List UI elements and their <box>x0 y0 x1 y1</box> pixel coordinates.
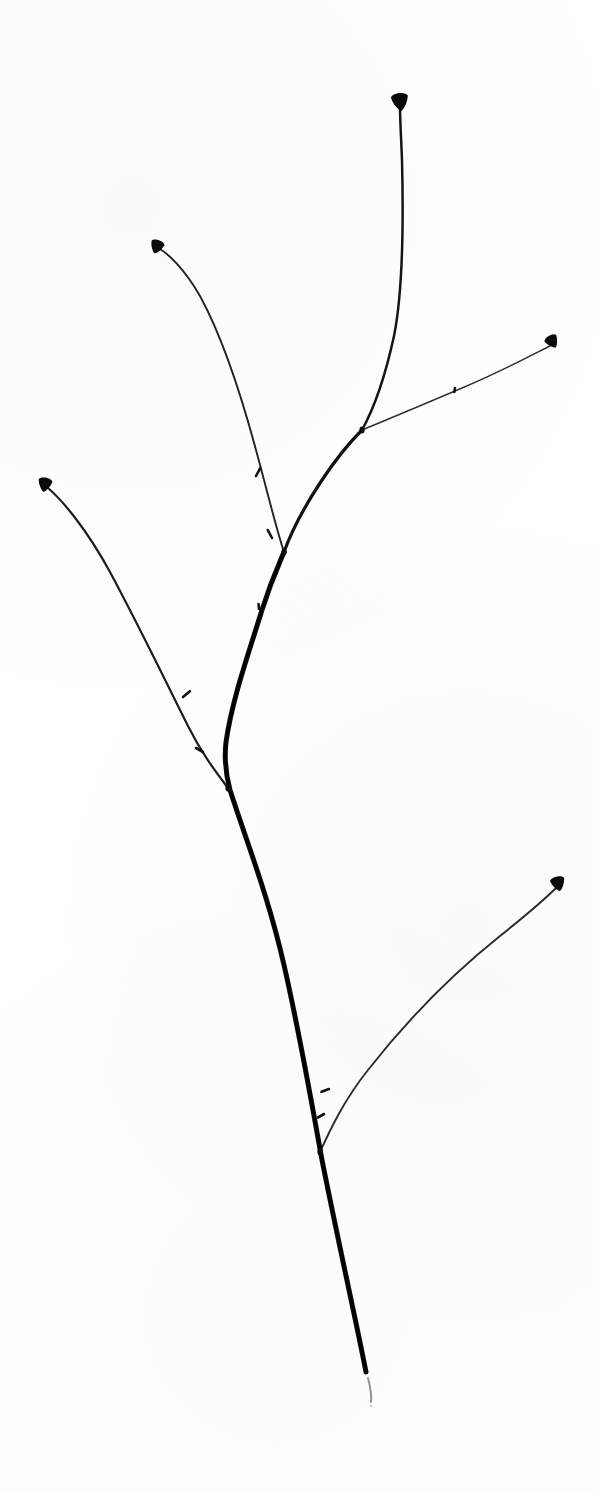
cut-end-speck <box>370 1405 372 1407</box>
fork-lower-node <box>317 1149 322 1156</box>
fork-upper-node <box>281 549 286 556</box>
twig-illustration <box>0 0 599 1493</box>
fork-mid-node <box>225 785 230 792</box>
lateral-bud-g-icon <box>454 388 455 392</box>
paper-background <box>0 0 599 1493</box>
fork-top-node <box>359 427 364 434</box>
specimen-canvas <box>0 0 599 1493</box>
